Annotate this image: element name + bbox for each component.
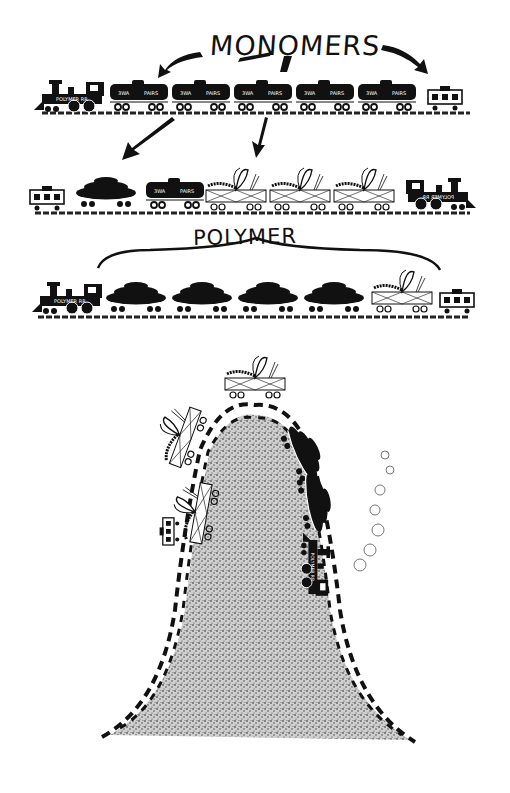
- polymer-train: [32, 270, 474, 317]
- mixed-train: [30, 168, 476, 213]
- monomers-train: [34, 80, 470, 113]
- illustration: POLYMER RR 3WA PAIRS: [0, 0, 510, 793]
- mountain-illustration: [102, 356, 415, 742]
- polymer-brace: [98, 238, 440, 270]
